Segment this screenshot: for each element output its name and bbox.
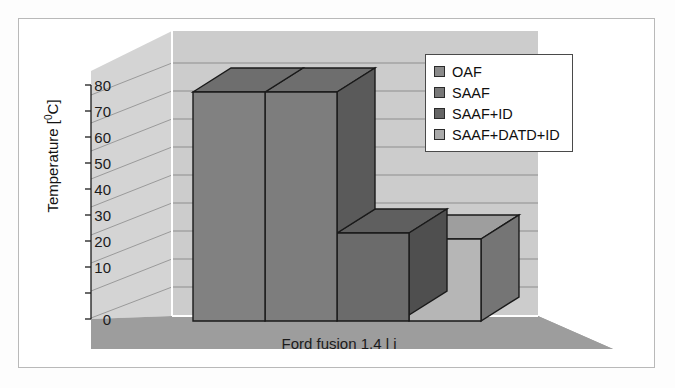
legend-swatch-oaf	[434, 66, 445, 77]
legend-item-saaf-datd-id[interactable]: SAAF+DATD+ID	[434, 124, 560, 145]
y-tick-80: 80	[71, 78, 111, 93]
legend-swatch-saaf-id	[434, 108, 445, 119]
y-axis-title: Temperature [0C]	[43, 61, 61, 251]
y-tick-10: 10	[71, 260, 111, 275]
right-floor-wedge	[538, 316, 613, 349]
y-tick-60: 60	[71, 130, 111, 145]
legend-label-oaf: OAF	[452, 64, 482, 80]
bar-2-side	[337, 68, 375, 233]
x-axis-category-label: Ford fusion 1.4 l i	[139, 335, 539, 352]
y-axis-degree-symbol: 0	[43, 114, 54, 120]
y-tick-30: 30	[71, 208, 111, 223]
y-tick-0: 0	[71, 312, 111, 327]
bar-2-front	[265, 92, 337, 321]
legend-label-saaf-id: SAAF+ID	[452, 106, 513, 122]
bar-1-front	[193, 92, 265, 321]
y-tick-40: 40	[71, 182, 111, 197]
chart-legend: OAF SAAF SAAF+ID SAAF+DATD+ID	[425, 54, 573, 152]
legend-swatch-saaf-datd-id	[434, 129, 445, 140]
chart-frame: 80 70 60 50 40 30 20 10 0 Temperature [0…	[18, 18, 655, 368]
legend-label-saaf-datd-id: SAAF+DATD+ID	[452, 127, 560, 143]
legend-item-saaf[interactable]: SAAF	[434, 82, 560, 103]
y-tick-20: 20	[71, 234, 111, 249]
bar-3-front	[337, 233, 409, 321]
legend-label-saaf: SAAF	[452, 85, 490, 101]
legend-item-oaf[interactable]: OAF	[434, 61, 560, 82]
y-axis-title-tail: C]	[44, 99, 61, 114]
y-tick-50: 50	[71, 156, 111, 171]
y-axis-title-main: Temperature [	[44, 120, 61, 213]
chart-figure: 80 70 60 50 40 30 20 10 0 Temperature [0…	[0, 0, 675, 388]
legend-swatch-saaf	[434, 87, 445, 98]
legend-item-saaf-id[interactable]: SAAF+ID	[434, 103, 560, 124]
y-tick-70: 70	[71, 104, 111, 119]
